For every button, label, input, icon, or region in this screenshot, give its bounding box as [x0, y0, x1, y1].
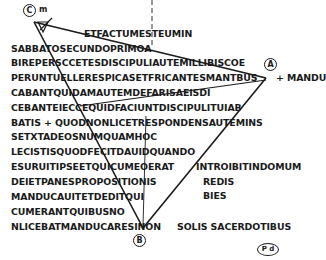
marker-b: B: [133, 234, 146, 247]
manuscript-line-2: SABBATOSECUNDOPRIMOA: [11, 44, 151, 54]
marker-a: A: [264, 58, 277, 71]
stamp-mark: P d: [257, 243, 279, 256]
manuscript-line-6: CEBANTEIECCEQUIDFACIUNTDISCIPULITUIAB: [11, 103, 242, 113]
manuscript-line-13: CUMERANTQUIBUSNO: [11, 207, 125, 217]
manuscript-line-10: ESURUITIPSEETQUICUMEOERAT: [11, 162, 174, 172]
manuscript-line-14: NLICEBATMANDUCARESINON: [11, 222, 161, 232]
manuscript-line-5: CABANTQUIDAMAUTEMDEFARISAEISDI: [11, 88, 210, 98]
manuscript-line-7: BATIS + QUODNONLICETRESPONDENSAUTEMINS: [11, 118, 263, 128]
manuscript-line-3: BIREPERSCCETESDISCIPULIAUTEMILLIBISCOE: [11, 58, 245, 68]
manuscript-line-14-end: SOLIS SACERDOTIBUS: [177, 222, 291, 232]
manuscript-line-4-end: + MANDU: [276, 73, 326, 83]
manuscript-line-12: MANDUCAUITETDEDITQUI: [11, 192, 144, 202]
manuscript-line-11: DEIETPANESPROPOSITIONIS: [11, 177, 157, 187]
corner-note: m: [39, 5, 47, 14]
manuscript-line-12-end: BIES: [203, 191, 226, 201]
manuscript-line-4: PERUNTUELLERESPICASETFRICANTESMANTBUS: [11, 73, 257, 83]
manuscript-line-10-end: INTROIBITINDOMUM: [196, 162, 301, 172]
manuscript-line-11-end: REDIS: [203, 177, 234, 187]
manuscript-line-8: SETXTADEOSNUMQUAMHOC: [11, 132, 157, 142]
manuscript-line-1: ETFACTUMESTEUMIN: [84, 29, 192, 39]
manuscript-line-9: LECISTISQUODFECITDAUIDQUANDO: [11, 147, 195, 157]
marker-c: C: [23, 4, 36, 17]
